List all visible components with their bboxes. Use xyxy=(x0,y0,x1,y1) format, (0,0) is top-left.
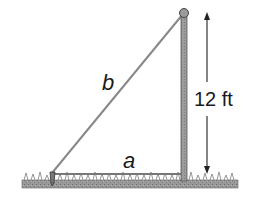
guy-wire xyxy=(52,14,183,173)
arrow-up-icon xyxy=(204,12,210,20)
diagram-canvas: b a 12 ft xyxy=(0,0,260,205)
label-hypotenuse: b xyxy=(102,70,114,95)
label-base: a xyxy=(123,148,135,173)
label-height: 12 ft xyxy=(194,88,233,110)
vertical-pole xyxy=(181,14,187,181)
pole-top-ball xyxy=(180,9,189,18)
